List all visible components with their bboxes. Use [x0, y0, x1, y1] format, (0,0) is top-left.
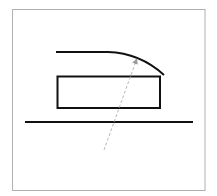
diagram-canvas — [0, 0, 217, 196]
frame-border — [13, 10, 206, 191]
